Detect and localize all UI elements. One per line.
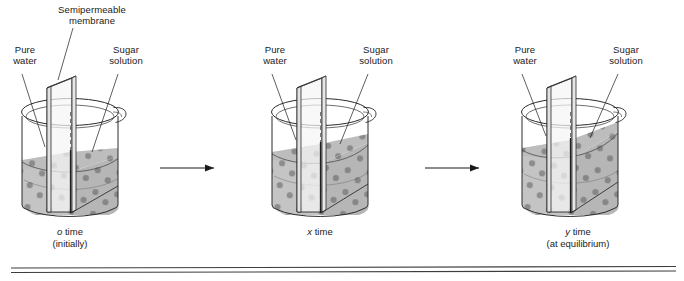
process-arrow-2: [425, 165, 479, 172]
caption-stage-o: o time (initially): [20, 226, 120, 250]
osmosis-figure: Pure water Semipermeable membrane Sugar …: [0, 0, 684, 281]
label-pure-water-stage-y: Pure water: [502, 44, 548, 66]
label-sugar-solution-stage-y: Sugar solution: [598, 44, 654, 66]
label-semipermeable-membrane: Semipermeable membrane: [44, 4, 140, 26]
caption-stage-y: y time (at equilibrium): [518, 226, 638, 250]
caption-stage-x: x time: [270, 226, 370, 238]
double-horizontal-rule: [11, 267, 676, 273]
label-sugar-solution-stage-x: Sugar solution: [348, 44, 404, 66]
process-arrow-1: [160, 165, 214, 172]
label-sugar-solution-stage-o: Sugar solution: [98, 44, 154, 66]
label-pure-water-stage-o: Pure water: [2, 44, 48, 66]
beaker-stage-x: [272, 74, 377, 216]
label-pure-water-stage-x: Pure water: [252, 44, 298, 66]
beaker-stage-y: [522, 74, 627, 216]
